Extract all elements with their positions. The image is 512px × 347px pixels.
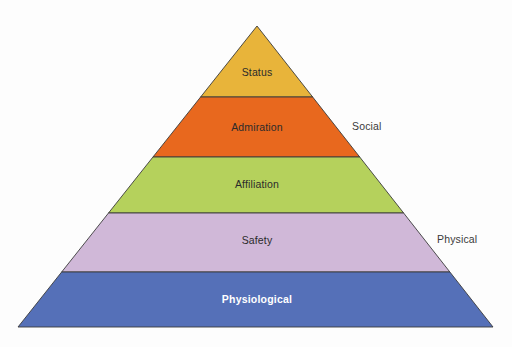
pyramid-tier-label-admiration: Admiration (231, 121, 283, 133)
pyramid-tier-label-status: Status (242, 66, 273, 78)
pyramid-canvas: StatusAdmirationAffiliationSafetyPhysiol… (0, 0, 512, 347)
pyramid-tier-status[interactable] (201, 26, 313, 97)
pyramid-tier-label-physiological: Physiological (222, 293, 292, 305)
pyramid-side-label-social: Social (352, 120, 382, 132)
pyramid-tier-label-affiliation: Affiliation (235, 178, 279, 190)
pyramid-diagram: StatusAdmirationAffiliationSafetyPhysiol… (0, 0, 512, 347)
pyramid-tier-label-safety: Safety (242, 234, 273, 246)
pyramid-side-label-physical: Physical (437, 233, 477, 245)
